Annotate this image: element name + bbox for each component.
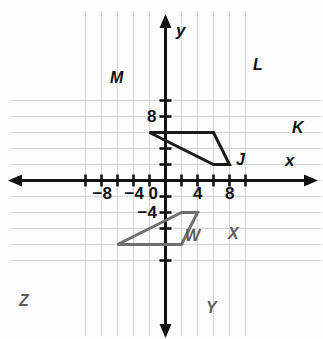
vertex-label-k: K	[292, 120, 304, 136]
vertex-label-x: X	[228, 226, 239, 242]
vertex-label-m: M	[110, 70, 123, 86]
graph-canvas	[0, 0, 323, 339]
vertex-label-l: L	[253, 57, 263, 73]
y-tick-label--4: −4	[138, 204, 157, 221]
axes	[8, 14, 318, 338]
x-tick-label-0: 0	[149, 185, 158, 202]
x-tick-label-8: 8	[225, 185, 234, 202]
x-tick-label--4: −4	[125, 185, 144, 202]
coordinate-plane-figure: yx−8−40488−4MLKJWXYZ	[0, 0, 323, 339]
vertex-label-w: W	[185, 228, 200, 244]
x-tick-label--8: −8	[93, 185, 112, 202]
y-tick-label-8: 8	[147, 108, 156, 125]
vertex-label-z: Z	[19, 293, 29, 309]
x-tick-label-4: 4	[193, 185, 202, 202]
vertex-label-y: Y	[206, 300, 217, 316]
x-axis-label: x	[285, 152, 294, 169]
y-axis-label: y	[176, 22, 185, 39]
vertex-label-j: J	[236, 152, 245, 168]
